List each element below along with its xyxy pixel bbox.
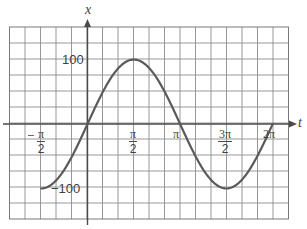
- t-axis-label: t: [298, 116, 302, 130]
- sine-plot: [0, 0, 307, 229]
- x-tick-neg-half-pi: π 2: [37, 128, 45, 155]
- y-tick-neg-100: −100: [51, 182, 80, 195]
- tick-numerator: π: [37, 128, 45, 142]
- tick-denominator: 2: [130, 142, 137, 155]
- tick-denominator: 2: [222, 142, 229, 155]
- x-tick-pi: π: [173, 128, 179, 140]
- tick-denominator: 2: [38, 142, 45, 155]
- axes: [3, 19, 297, 225]
- x-axis-arrow-icon: [84, 19, 91, 27]
- x-tick-half-pi: π 2: [129, 128, 137, 155]
- x-tick-two-pi: 2π: [263, 128, 275, 140]
- t-axis-arrow-icon: [289, 121, 297, 128]
- x-axis-label: x: [85, 3, 91, 17]
- minus-sign: [28, 135, 34, 136]
- tick-numerator: 3π: [218, 128, 232, 142]
- x-tick-three-half-pi: 3π 2: [218, 128, 232, 155]
- tick-numerator: π: [129, 128, 137, 142]
- y-tick-100: 100: [62, 53, 84, 66]
